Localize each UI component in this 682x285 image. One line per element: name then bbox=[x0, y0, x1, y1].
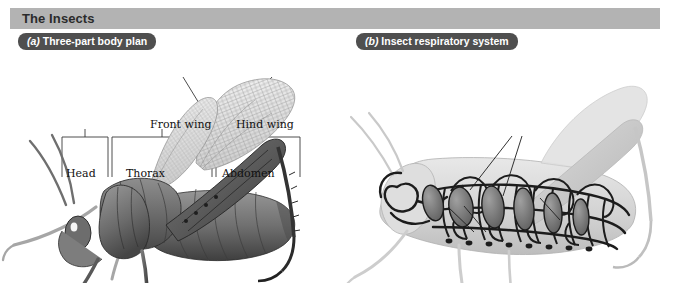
callout-hind-wing: Hind wing bbox=[236, 119, 294, 131]
ghost-antennae bbox=[351, 113, 403, 175]
figure-header-bar: The Insects bbox=[10, 8, 660, 29]
panel-tab-b: (b) Insect respiratory system bbox=[356, 33, 518, 50]
figure-title: The Insects bbox=[22, 11, 95, 26]
grasshopper-tracheal-system-illustration bbox=[341, 55, 682, 283]
panel-insect-respiratory-system: Air sacs Spiracles Trachea bbox=[341, 55, 682, 283]
panel-tab-title-a: Three-part body plan bbox=[43, 35, 147, 47]
grasshopper-body-plan-illustration bbox=[0, 55, 341, 283]
panel-letter-b: (b) bbox=[365, 35, 378, 47]
panel-letter-a: (a) bbox=[27, 35, 40, 47]
panel-tab-a: (a) Three-part body plan bbox=[18, 33, 156, 50]
callout-thorax: Thorax bbox=[126, 168, 165, 180]
panel-tab-title-b: Insect respiratory system bbox=[381, 35, 508, 47]
callout-head: Head bbox=[66, 168, 96, 180]
callout-front-wing: Front wing bbox=[150, 119, 212, 131]
callout-abdomen: Abdomen bbox=[222, 168, 275, 180]
panel-three-part-body-plan: Front wing Hind wing Head Thorax Abdomen bbox=[0, 55, 341, 283]
